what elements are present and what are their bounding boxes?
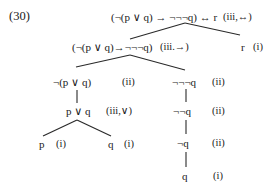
llll-rule: (i) <box>56 138 66 150</box>
root-rule: (iii,↔) <box>223 11 252 23</box>
lllr-rule: (i) <box>124 138 134 150</box>
edge-left-lr <box>130 55 185 70</box>
lr2-rule: (ii) <box>212 105 225 117</box>
lll-formula: p ∨ q <box>66 105 91 117</box>
lr4-formula: q <box>182 170 188 182</box>
lr4-rule: (i) <box>213 170 223 182</box>
ll-formula: ¬(p ∨ q) <box>53 76 91 88</box>
lr-rule: (ii) <box>212 76 225 88</box>
right-formula: r <box>241 41 245 53</box>
tree-edges <box>0 0 269 189</box>
edge-lll-lllr <box>77 120 111 136</box>
lllr-formula: q <box>108 138 114 150</box>
left-rule: (iii.→) <box>160 41 189 53</box>
edge-root-left <box>130 23 185 39</box>
root-formula: (¬(p ∨ q) → ¬¬¬q) ↔ r <box>111 11 217 23</box>
edge-left-ll <box>76 55 130 67</box>
llll-formula: p <box>39 138 45 150</box>
edge-root-right <box>185 23 240 35</box>
ll-rule: (ii) <box>122 76 135 88</box>
right-rule: (i) <box>253 41 263 53</box>
lll-rule: (iii,∨) <box>106 105 132 117</box>
left-formula: (¬(p ∨ q)→¬¬¬q) <box>72 41 153 53</box>
lr2-formula: ¬¬q <box>173 105 191 117</box>
lr-formula: ¬¬¬q <box>172 76 196 88</box>
lr3-rule: (ii) <box>212 137 225 149</box>
example-number: (30) <box>9 10 30 22</box>
lr3-formula: ¬q <box>177 137 189 149</box>
edge-lll-llll <box>43 120 77 136</box>
